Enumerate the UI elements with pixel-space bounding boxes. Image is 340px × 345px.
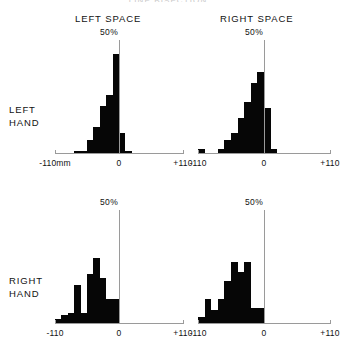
column-heading-left-space: LEFT SPACE	[75, 13, 141, 24]
plot-area: 50%	[198, 40, 330, 154]
y-axis-tick-label: 50%	[245, 197, 264, 207]
x-axis-tick	[183, 320, 184, 324]
x-axis-tick-label: -110	[46, 328, 63, 338]
x-axis-tick	[264, 320, 265, 324]
histogram-bar	[211, 310, 218, 324]
x-axis-tick	[264, 150, 265, 154]
panel-left-hand-left-space: 50%-110mm0+110	[55, 26, 183, 174]
x-axis-tick-label: +110	[320, 158, 339, 168]
histogram-bar	[218, 299, 225, 324]
row-label-right-hand-line2: HAND	[9, 288, 43, 301]
y-axis-tick-label: 50%	[100, 27, 119, 37]
x-axis-tick-label: -110	[189, 158, 206, 168]
histogram-bar	[244, 262, 251, 324]
x-axis-tick-label: -110mm	[39, 158, 71, 168]
y-axis: 50%	[264, 210, 265, 324]
x-axis	[198, 153, 330, 154]
histogram-bar	[257, 72, 264, 154]
x-axis-tick	[55, 320, 56, 324]
x-axis-tick-label: +110	[320, 328, 339, 338]
plot-area: 50%	[55, 40, 183, 154]
x-axis-tick	[119, 150, 120, 154]
x-axis-tick	[330, 320, 331, 324]
row-label-right-hand-line1: RIGHT	[9, 275, 43, 288]
row-label-left-hand-line2: HAND	[9, 117, 40, 130]
x-axis-tick-label: 0	[117, 328, 122, 338]
x-axis-tick-label: 0	[117, 158, 122, 168]
y-axis-tick-label: 50%	[100, 197, 119, 207]
x-axis-tick-label: 0	[262, 328, 267, 338]
x-axis-tick	[198, 320, 199, 324]
x-axis	[198, 323, 330, 324]
plot-area: 50%	[198, 210, 330, 324]
panel-left-hand-right-space: 50%-1100+110	[198, 26, 330, 174]
x-axis-tick-label: 0	[262, 158, 267, 168]
x-axis-tick	[55, 150, 56, 154]
y-axis: 50%	[264, 40, 265, 154]
histogram-bar	[231, 133, 238, 154]
panel-right-hand-right-space: 50%-1100+110	[198, 196, 330, 344]
histogram-bar	[224, 281, 231, 324]
panel-right-hand-left-space: 50%-1100+110	[55, 196, 183, 344]
x-axis-tick	[183, 150, 184, 154]
histogram-bar	[205, 299, 212, 324]
histogram-bar	[244, 102, 251, 154]
figure-title: LINE BISECTION	[0, 0, 336, 2]
histogram-bar	[238, 118, 245, 154]
histogram-bar	[231, 262, 238, 324]
y-axis: 50%	[119, 40, 120, 154]
x-axis-tick	[330, 150, 331, 154]
column-heading-right-space: RIGHT SPACE	[220, 13, 293, 24]
histogram-bar	[257, 308, 264, 324]
histogram-bar	[251, 83, 258, 154]
histogram-bar	[224, 140, 231, 154]
row-label-right-hand: RIGHT HAND	[9, 275, 43, 300]
x-axis	[55, 153, 183, 154]
y-axis: 50%	[119, 210, 120, 324]
histogram-bar	[238, 272, 245, 324]
x-axis-tick-label: -110	[189, 328, 206, 338]
y-axis-tick-label: 50%	[245, 27, 264, 37]
row-label-left-hand-line1: LEFT	[9, 104, 40, 117]
plot-area: 50%	[55, 210, 183, 324]
row-label-left-hand: LEFT HAND	[9, 104, 40, 129]
x-axis-tick	[198, 150, 199, 154]
x-axis-tick	[119, 320, 120, 324]
histogram-bar	[251, 308, 258, 324]
x-axis	[55, 323, 183, 324]
